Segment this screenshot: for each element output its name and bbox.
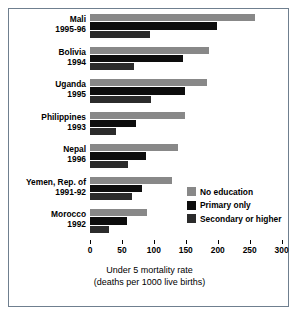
category-year: 1993: [0, 122, 86, 132]
bar-group: Nepal1996: [9, 143, 290, 176]
category-year: 1996: [0, 154, 86, 164]
bar-group: Philippines1993: [9, 111, 290, 144]
x-tick-label: 100: [147, 245, 161, 255]
category-name: Morocco: [0, 209, 86, 219]
legend-label: No education: [200, 187, 253, 197]
bar-primary-only: [90, 120, 136, 127]
bar-stack: [90, 144, 288, 174]
chart-frame: Mali1995-96Bolivia1994Uganda1995Philippi…: [8, 8, 289, 307]
bar-secondary-or-higher: [90, 63, 134, 70]
bar-group: Bolivia1994: [9, 46, 290, 79]
x-tick: [186, 240, 187, 244]
bar-stack: [90, 14, 288, 44]
x-tick: [250, 240, 251, 244]
legend-swatch-icon: [187, 201, 196, 210]
x-tick: [154, 240, 155, 244]
category-label: Mali1995-96: [0, 14, 86, 35]
category-year: 1995: [0, 89, 86, 99]
bar-stack: [90, 47, 288, 77]
bar-primary-only: [90, 22, 217, 29]
category-year: 1992: [0, 219, 86, 229]
bar-secondary-or-higher: [90, 193, 132, 200]
plot-area: Mali1995-96Bolivia1994Uganda1995Philippi…: [9, 9, 290, 308]
bar-no-education: [90, 47, 209, 54]
bar-secondary-or-higher: [90, 96, 151, 103]
bar-stack: [90, 112, 288, 142]
x-axis-title-line2: (deaths per 1000 live births): [9, 277, 290, 289]
bar-primary-only: [90, 55, 183, 62]
category-label: Uganda1995: [0, 79, 86, 100]
bar-group: Mali1995-96: [9, 13, 290, 46]
category-label: Philippines1993: [0, 112, 86, 133]
category-name: Bolivia: [0, 47, 86, 57]
x-axis-title: Under 5 mortality rate (deaths per 1000 …: [9, 265, 290, 288]
category-year: 1995-96: [0, 24, 86, 34]
bar-secondary-or-higher: [90, 161, 128, 168]
legend-item: Secondary or higher: [187, 212, 287, 226]
bar-no-education: [90, 144, 178, 151]
x-tick-label: 150: [179, 245, 193, 255]
bar-secondary-or-higher: [90, 128, 116, 135]
chart-figure: Mali1995-96Bolivia1994Uganda1995Philippi…: [0, 0, 297, 315]
x-axis: 050100150200250300: [90, 240, 288, 262]
category-year: 1994: [0, 57, 86, 67]
bar-secondary-or-higher: [90, 226, 109, 233]
category-label: Bolivia1994: [0, 47, 86, 68]
bar-no-education: [90, 112, 185, 119]
x-tick: [90, 240, 91, 244]
legend-swatch-icon: [187, 187, 196, 196]
bar-no-education: [90, 14, 255, 21]
category-label: Nepal1996: [0, 144, 86, 165]
x-tick: [282, 240, 283, 244]
category-name: Nepal: [0, 144, 86, 154]
x-axis-title-line1: Under 5 mortality rate: [9, 265, 290, 277]
x-tick-label: 50: [117, 245, 126, 255]
x-tick-label: 300: [275, 245, 289, 255]
category-name: Uganda: [0, 79, 86, 89]
bar-primary-only: [90, 217, 127, 224]
category-name: Mali: [0, 14, 86, 24]
x-tick-label: 0: [88, 245, 93, 255]
x-tick: [122, 240, 123, 244]
category-label: Morocco1992: [0, 209, 86, 230]
category-name: Philippines: [0, 112, 86, 122]
legend-item: Primary only: [187, 199, 287, 213]
category-year: 1991-92: [0, 187, 86, 197]
legend-label: Secondary or higher: [200, 214, 281, 224]
bar-secondary-or-higher: [90, 31, 150, 38]
bar-no-education: [90, 177, 172, 184]
category-label: Yemen, Rep. of1991-92: [0, 177, 86, 198]
legend-item: No education: [187, 185, 287, 199]
bar-stack: [90, 79, 288, 109]
bar-primary-only: [90, 152, 146, 159]
legend-label: Primary only: [200, 200, 251, 210]
bar-primary-only: [90, 87, 185, 94]
legend-swatch-icon: [187, 214, 196, 223]
bar-group: Uganda1995: [9, 78, 290, 111]
bar-no-education: [90, 209, 147, 216]
bar-primary-only: [90, 185, 142, 192]
bar-no-education: [90, 79, 207, 86]
x-tick-label: 250: [243, 245, 257, 255]
chart-legend: No educationPrimary onlySecondary or hig…: [187, 185, 287, 226]
category-name: Yemen, Rep. of: [0, 177, 86, 187]
x-tick: [218, 240, 219, 244]
x-tick-label: 200: [211, 245, 225, 255]
